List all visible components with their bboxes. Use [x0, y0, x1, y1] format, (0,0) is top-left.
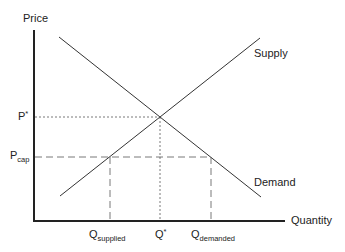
q-star-mark: *: [164, 227, 167, 236]
p-star-label: P*: [18, 111, 28, 122]
supply-label: Supply: [254, 48, 288, 59]
q-supplied-sub: supplied: [98, 234, 126, 243]
p-cap-sub: cap: [17, 155, 29, 164]
q-supplied-label: Qsupplied: [89, 229, 126, 240]
q-demanded-base: Q: [191, 228, 200, 240]
p-star-mark: *: [25, 109, 28, 118]
q-star-label: Q*: [155, 229, 166, 240]
demand-label: Demand: [254, 177, 296, 188]
p-cap-label: Pcap: [10, 150, 29, 161]
q-demanded-sub: demanded: [200, 234, 235, 243]
y-axis-label: Price: [23, 13, 48, 24]
x-axis-label: Quantity: [291, 215, 332, 226]
q-star-base: Q: [155, 228, 164, 240]
q-supplied-base: Q: [89, 228, 98, 240]
q-demanded-label: Qdemanded: [191, 229, 235, 240]
